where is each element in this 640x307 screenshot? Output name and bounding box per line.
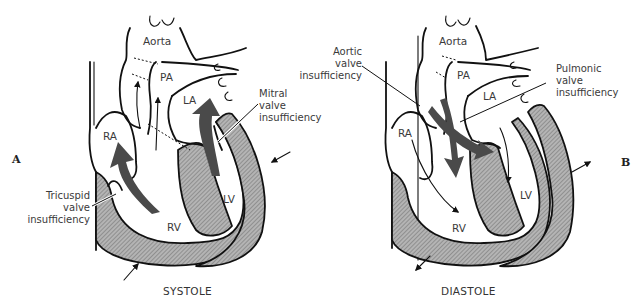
- label-aorta-a: Aorta: [143, 35, 171, 47]
- valve-dash-1a: [134, 58, 158, 64]
- aortic-line-3: insufficiency: [299, 70, 362, 81]
- panel-b-diastole: Aorta PA LA RA LV RV Aortic valve insuff…: [299, 16, 630, 297]
- mitral-line-3: insufficiency: [259, 112, 322, 123]
- label-rv-a: RV: [167, 221, 182, 233]
- panel-a-systole: Aorta PA LA RA LV RV Mitral valve insuff…: [11, 16, 322, 297]
- aorta-right-a: [180, 28, 246, 60]
- tricuspid-line-3: insufficiency: [27, 214, 90, 225]
- aortic-line-1: Aortic: [333, 46, 362, 57]
- aorta-top-a: [150, 16, 174, 26]
- annotation-aortic: Aortic valve insufficiency: [299, 46, 420, 106]
- panel-letter-a: A: [11, 153, 21, 166]
- panel-letter-b: B: [621, 156, 630, 169]
- label-rv-b: RV: [452, 222, 467, 234]
- label-la-b: LA: [483, 90, 497, 102]
- label-pa-b: PA: [457, 69, 471, 81]
- pulmonary-veins-a: [214, 64, 232, 100]
- heart-valve-diagram: Aorta PA LA RA LV RV Mitral valve insuff…: [0, 0, 640, 307]
- caption-diastole: DIASTOLE: [441, 285, 496, 297]
- pa-branch-a: [162, 62, 238, 96]
- aortic-line-2: valve: [335, 58, 362, 69]
- label-ra-b: RA: [398, 127, 413, 139]
- label-la-a: LA: [183, 94, 197, 106]
- label-ra-a: RA: [103, 130, 118, 142]
- mitral-line-1: Mitral: [259, 88, 287, 99]
- relaxation-arrow-right-b: [572, 162, 590, 172]
- tricuspid-line-1: Tricuspid: [45, 190, 90, 201]
- mitral-line-2: valve: [259, 100, 286, 111]
- flow-up-arrow-1a: [137, 82, 140, 128]
- pulmonic-line-1: Pulmonic: [556, 63, 601, 74]
- vena-cava-line-a: [89, 62, 96, 250]
- ra-outline-a: [96, 112, 136, 179]
- flow-up-arrow-2a: [156, 98, 158, 150]
- vena-cava-line-b: [385, 62, 392, 248]
- caption-systole: SYSTOLE: [163, 285, 212, 297]
- valve-dash-2a: [132, 74, 148, 80]
- valve-dash-2b: [436, 72, 446, 78]
- pulmonic-line-3: insufficiency: [556, 87, 619, 98]
- label-aorta-b: Aorta: [439, 35, 467, 47]
- label-lv-a: LV: [223, 193, 236, 205]
- label-pa-a: PA: [160, 71, 174, 83]
- pulmonic-line-2: valve: [556, 75, 583, 86]
- aorta-top-b: [446, 16, 470, 26]
- ra-outline-b: [392, 112, 432, 179]
- septum-a: [178, 143, 232, 236]
- aorta-right-b: [476, 26, 538, 60]
- pa-outline-a: [148, 62, 156, 134]
- valve-dash-3a: [148, 124, 190, 150]
- valve-dash-1b: [442, 56, 456, 60]
- pulmonic-regurg-arrow-b: [428, 106, 494, 160]
- contraction-arrow-right-a: [272, 152, 290, 162]
- label-lv-b: LV: [520, 189, 533, 201]
- tricuspid-line-2: valve: [63, 202, 90, 213]
- contraction-arrow-bottom-a: [124, 264, 138, 280]
